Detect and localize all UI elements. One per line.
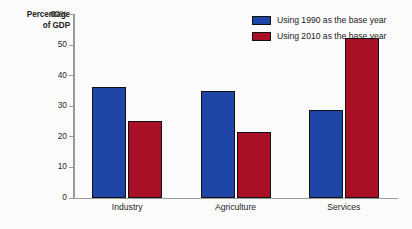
legend-swatch-icon <box>252 32 271 41</box>
bar-services-series-1 <box>345 38 379 197</box>
y-tick-mark <box>69 45 74 46</box>
y-tick-mark <box>69 75 74 76</box>
y-tick-label: 20 <box>58 131 67 141</box>
y-axis-title-line-2: of GDP <box>8 21 70 32</box>
y-tick-label: 50 <box>58 39 67 49</box>
legend-item-0: Using 1990 as the base year <box>252 13 386 27</box>
y-tick-mark <box>69 14 74 15</box>
bar-agriculture-series-1 <box>237 132 271 198</box>
category-label-services: Services <box>327 202 360 212</box>
bar-chart: Percentage of GDP 0102030405060% Industr… <box>0 0 412 229</box>
bar-industry-series-0 <box>92 87 126 197</box>
legend-label: Using 2010 as the base year <box>277 31 386 41</box>
bar-services-series-0 <box>309 110 343 197</box>
y-tick-label: 30 <box>58 100 67 110</box>
y-tick-mark <box>69 167 74 168</box>
y-tick-label: 10 <box>58 161 67 171</box>
x-axis-line <box>73 198 398 200</box>
chart-legend: Using 1990 as the base yearUsing 2010 as… <box>252 13 386 45</box>
bar-industry-series-1 <box>128 121 162 197</box>
category-label-industry: Industry <box>112 202 143 212</box>
legend-item-1: Using 2010 as the base year <box>252 29 386 43</box>
y-tick-label: 60% <box>50 9 67 19</box>
legend-swatch-icon <box>252 16 271 25</box>
bar-agriculture-series-0 <box>201 91 235 197</box>
category-label-agriculture: Agriculture <box>215 202 256 212</box>
legend-label: Using 1990 as the base year <box>277 15 386 25</box>
y-tick-label: 40 <box>58 70 67 80</box>
y-tick-label: 0 <box>62 192 67 202</box>
y-tick-mark <box>69 198 74 199</box>
y-tick-mark <box>69 106 74 107</box>
y-tick-mark <box>69 136 74 137</box>
